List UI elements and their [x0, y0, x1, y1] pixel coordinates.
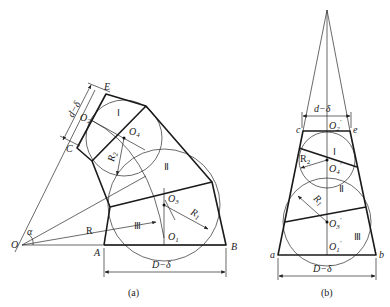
- diagram-canvas: d−δ D−δ E C O A B α O2 O4 O3 O1 R R1 R2 …: [0, 0, 390, 307]
- label-b: B: [231, 241, 237, 252]
- section-2-label-b: Ⅱ: [339, 183, 344, 194]
- label-r2: R2: [105, 150, 120, 164]
- centerline-arc: [91, 120, 164, 238]
- dim-top-b-label: d−δ: [314, 103, 331, 114]
- label-e-b: e: [353, 124, 358, 135]
- label-e: E: [103, 81, 110, 92]
- point-o4: [123, 137, 126, 140]
- panel-a: d−δ D−δ E C O A B α O2 O4 O3 O1 R R1 R2 …: [11, 81, 237, 299]
- label-o: O: [11, 239, 18, 250]
- dim-bottom-b-label: D−δ: [312, 263, 332, 274]
- cone-line-right: [327, 10, 350, 131]
- label-alpha: α: [27, 226, 33, 237]
- label-o4: O4: [129, 126, 140, 139]
- label-a: A: [93, 247, 101, 258]
- point-o4p: [326, 159, 329, 162]
- section-1-label-b: Ⅰ: [333, 146, 336, 157]
- label-r1: R1: [187, 206, 202, 222]
- label-c: C: [66, 143, 73, 154]
- label-b-b: b: [379, 249, 384, 260]
- label-r1-b: R1: [310, 192, 327, 209]
- label-o3: O3: [168, 193, 179, 206]
- label-o1: O1: [168, 231, 179, 244]
- point-o3: [163, 204, 166, 207]
- dim-bottom-a-label: D−δ: [151, 259, 171, 270]
- label-o4p: O4′: [329, 161, 342, 176]
- separator-b-2-3: [285, 207, 366, 222]
- label-r: R: [86, 225, 93, 236]
- section-1-label: Ⅰ: [117, 107, 120, 118]
- label-o2: O2: [80, 112, 91, 125]
- section-2-label: Ⅱ: [164, 161, 169, 172]
- section-3-label: Ⅲ: [134, 220, 141, 231]
- label-o1p: O1′: [329, 239, 342, 254]
- label-a-b: a: [270, 249, 275, 260]
- label-r2-b: R2: [300, 153, 311, 166]
- elbow-outline: [77, 94, 226, 245]
- caption-b: (b): [321, 287, 333, 299]
- caption-a: (a): [128, 287, 139, 299]
- radius-r1-arrow: [164, 205, 208, 229]
- section-3-label-b: Ⅲ: [354, 231, 361, 242]
- label-o3p: O3′: [329, 216, 342, 231]
- panel-b: d−δ D−δ c e a b O2′ O4′ O3′ O1′ R2 R1 Ⅰ …: [270, 10, 384, 299]
- label-c-b: c: [296, 124, 301, 135]
- separator-2-3: [110, 182, 212, 207]
